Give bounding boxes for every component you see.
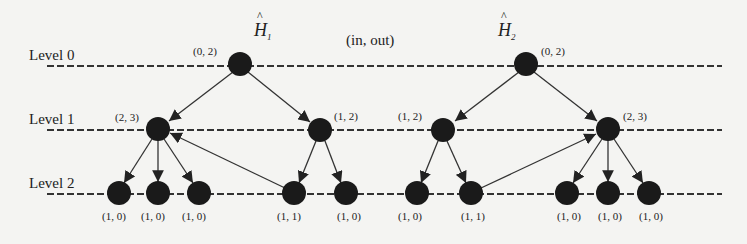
node-label: (1, 0) [398, 210, 422, 223]
edge [455, 72, 519, 121]
edge [614, 139, 643, 183]
edge [164, 139, 193, 183]
edge [447, 141, 466, 183]
node-label: (1, 0) [557, 210, 581, 223]
node [514, 52, 538, 76]
tree-1-nodes [107, 52, 358, 205]
edge [325, 141, 341, 183]
tree-1-subscript: 1 [267, 32, 272, 42]
node-label: (1, 0) [337, 210, 361, 223]
node [187, 181, 211, 205]
node-label: (1, 0) [102, 210, 126, 223]
edge [534, 72, 597, 121]
node-label: (1, 0) [182, 210, 206, 223]
edge [481, 134, 596, 188]
level-0-label: Level 0 [29, 47, 74, 63]
node [146, 117, 170, 141]
edge [248, 72, 310, 122]
node [405, 181, 429, 205]
edge [299, 141, 316, 183]
edge [421, 141, 438, 183]
tree-1-hat: ^ [257, 9, 263, 23]
node-label: (1, 2) [334, 110, 358, 123]
tree-1-title: H 1 ^ [253, 9, 272, 42]
node [459, 181, 483, 205]
edge [170, 133, 285, 188]
node [596, 117, 620, 141]
node [107, 181, 131, 205]
node-label: (1, 1) [461, 210, 485, 223]
node-label: (0, 2) [541, 45, 565, 58]
node [431, 118, 455, 142]
node-label: (1, 0) [639, 210, 663, 223]
edge [573, 139, 602, 183]
tree-2-name: H [497, 20, 512, 40]
node-label: (1, 1) [277, 210, 301, 223]
node [637, 181, 661, 205]
level-2-label: Level 2 [29, 175, 74, 191]
node-label: (0, 2) [193, 45, 217, 58]
node [334, 181, 358, 205]
tree-2-title: H 2 ^ [497, 9, 516, 42]
node-label: (1, 0) [598, 210, 622, 223]
tree-2-hat: ^ [501, 9, 507, 23]
node [596, 181, 620, 205]
node [146, 181, 170, 205]
edge [169, 72, 233, 121]
level-1-label: Level 1 [29, 111, 74, 127]
tree-2-subscript: 2 [511, 32, 516, 42]
hierarchy-diagram: Level 0 Level 1 Level 2 H 1 ^ (in, out) … [0, 0, 747, 244]
tree-1-name: H [253, 20, 268, 40]
edge [124, 139, 152, 183]
node-label: (1, 0) [141, 210, 165, 223]
tree-2-nodes [405, 52, 661, 205]
node [228, 52, 252, 76]
node-label: (2, 3) [623, 110, 647, 123]
node-label: (2, 3) [115, 111, 139, 124]
node [282, 181, 306, 205]
node-label: (1, 2) [398, 110, 422, 123]
node [555, 181, 579, 205]
legend-in-out: (in, out) [346, 32, 394, 49]
node [308, 118, 332, 142]
